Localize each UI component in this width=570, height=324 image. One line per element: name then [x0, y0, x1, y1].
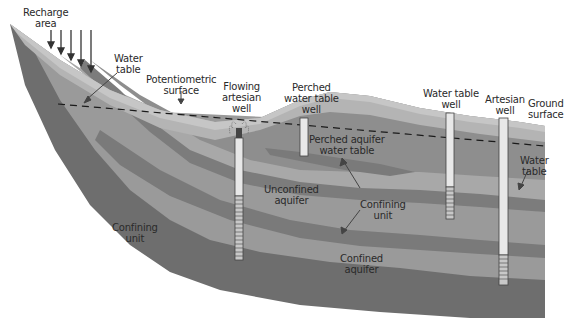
label-artesian-well: Artesianwell — [485, 94, 525, 116]
label-ground-surface: Groundsurface — [528, 98, 564, 120]
aquifer-diagram — [0, 0, 570, 324]
label-confining-unit-middle: Confiningunit — [360, 199, 406, 221]
label-unconfined-aquifer: Unconfinedaquifer — [264, 184, 319, 206]
label-flowing-artesian-well: Flowingartesianwell — [222, 81, 261, 114]
label-confining-unit-left: Confiningunit — [112, 222, 158, 244]
label-water-table-right: Watertable — [520, 155, 549, 177]
label-water-table-well: Water tablewell — [423, 88, 479, 110]
label-confined-aquifer: Confinedaquifer — [340, 253, 383, 275]
artesian-well — [499, 118, 508, 285]
label-water-table-left: Watertable — [114, 53, 143, 75]
label-potentiometric-surface: Potentiometricsurface — [146, 74, 216, 96]
label-perched-aquifer-water-table: Perched aquiferwater table — [309, 134, 385, 156]
label-recharge-area: Rechargearea — [23, 7, 68, 29]
label-perched-water-table-well: Perchedwater tablewell — [284, 82, 339, 115]
perched-water-table-well — [300, 118, 308, 156]
water-table-well — [446, 113, 454, 219]
